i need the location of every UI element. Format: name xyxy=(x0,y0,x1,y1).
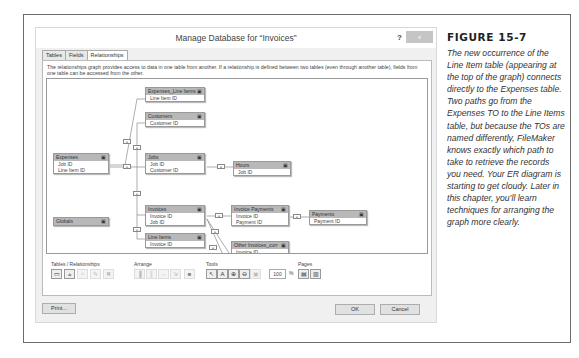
table-occurrence-other-invoices[interactable]: Other Invoices_curr▣ Invoice ID Job ID xyxy=(231,241,289,254)
table-occurrence-expenses[interactable]: Expenses▣ Job ID Line Item ID xyxy=(53,153,109,174)
collapse-icon[interactable]: ▣ xyxy=(359,211,364,218)
resize-icon[interactable]: ⇲ xyxy=(170,269,181,279)
collapse-icon[interactable]: ▣ xyxy=(197,113,202,120)
collapse-icon[interactable]: ▣ xyxy=(281,206,286,213)
help-button[interactable]: ? xyxy=(397,33,402,42)
zoom-unit: % xyxy=(289,270,293,276)
zoom-out-icon[interactable]: ⊖ xyxy=(239,269,250,279)
to-name: Expenses_Line Items xyxy=(148,88,196,94)
align-center-icon[interactable]: ║ xyxy=(146,269,157,279)
to-name: Invoice Payments xyxy=(234,206,273,212)
group-label-tables-relationships: Tables / Relationships xyxy=(51,261,100,267)
table-occurrence-customers[interactable]: Customers▣ Customer ID xyxy=(145,112,205,127)
relationship-invoices-line-items[interactable]: = xyxy=(133,227,141,232)
collapse-icon[interactable]: ▣ xyxy=(101,218,106,225)
to-field: Invoice ID xyxy=(232,249,288,254)
to-field: Invoice ID xyxy=(146,241,204,247)
ok-button[interactable]: OK xyxy=(335,304,375,315)
page-breaks-icon[interactable]: ▥ xyxy=(310,269,321,279)
cancel-button[interactable]: Cancel xyxy=(380,304,420,315)
add-relationship-icon[interactable]: ⫨ xyxy=(64,269,75,279)
table-occurrence-hours[interactable]: Hours▣ Job ID xyxy=(233,161,291,176)
relationship-jobs-customers[interactable]: = xyxy=(133,145,141,150)
relationships-graph[interactable]: Expenses_Line Items▣ Line Item ID Custom… xyxy=(46,78,428,254)
table-occurrence-invoice-payments[interactable]: Invoice Payments▣ Invoice ID Payment ID xyxy=(231,205,289,226)
add-table-icon[interactable]: ▭ xyxy=(51,269,62,279)
duplicate-icon[interactable]: ✧ xyxy=(77,269,88,279)
collapse-icon[interactable]: ▣ xyxy=(197,154,202,161)
to-field: Job ID xyxy=(146,219,204,225)
relationship-invoice-payments-payments[interactable]: = xyxy=(293,214,301,219)
relationship-jobs-hours[interactable]: = xyxy=(217,164,225,169)
collapse-icon[interactable]: ▣ xyxy=(197,206,202,213)
to-name: Line Items xyxy=(148,234,171,240)
to-name: Payments xyxy=(312,211,334,217)
align-left-icon[interactable]: ▐ xyxy=(134,269,145,279)
zoom-level-field[interactable]: 100 xyxy=(269,269,286,279)
to-name: Globals xyxy=(56,218,73,224)
relationship-invoices-other-invoices[interactable]: = xyxy=(211,229,219,234)
to-name: Customers xyxy=(148,113,172,119)
to-name: Hours xyxy=(236,162,249,168)
page-setup-icon[interactable]: ▤ xyxy=(298,269,309,279)
to-field: Payment ID xyxy=(232,219,288,225)
relationship-expenses-jobs[interactable]: = xyxy=(123,164,131,169)
to-name: Jobs xyxy=(148,154,159,160)
collapse-icon[interactable]: ▣ xyxy=(197,234,202,241)
to-name: Expenses xyxy=(56,154,78,160)
close-button[interactable]: x xyxy=(406,31,433,43)
to-name: Other Invoices_curr xyxy=(234,242,278,248)
table-occurrence-line-items[interactable]: Line Items▣ Invoice ID xyxy=(145,233,205,248)
to-field: Customer ID xyxy=(146,120,204,126)
zoom-in-icon[interactable]: ⊕ xyxy=(228,269,239,279)
relationships-panel: The relationships graph provides access … xyxy=(42,60,432,296)
group-label-tools: Tools xyxy=(206,261,218,267)
table-occurrence-invoices[interactable]: Invoices▣ Invoice ID Job ID xyxy=(145,205,205,226)
pointer-tool-icon[interactable]: ↖ xyxy=(206,269,217,279)
fit-icon[interactable]: ▣ xyxy=(250,269,261,279)
print-button[interactable]: Print... xyxy=(42,303,76,314)
group-label-arrange: Arrange xyxy=(134,261,152,267)
edit-icon[interactable]: ✎ xyxy=(90,269,101,279)
to-field: Line Item ID xyxy=(146,95,204,101)
title-bar: Manage Database for “Invoices” ? x xyxy=(36,28,436,48)
relationships-description: The relationships graph provides access … xyxy=(47,64,427,77)
relationship-jobs-invoices[interactable]: = xyxy=(133,191,141,196)
to-name: Invoices xyxy=(148,206,166,212)
table-occurrence-jobs[interactable]: Jobs▣ Job ID Customer ID xyxy=(145,153,205,174)
figure-caption: FIGURE 15-7 The new occurrence of the Li… xyxy=(447,31,565,228)
manage-database-dialog: Manage Database for “Invoices” ? x Table… xyxy=(35,27,437,323)
collapse-icon[interactable]: ▣ xyxy=(281,242,286,249)
relationship-invoices-all-invoices[interactable]: = xyxy=(209,245,217,250)
table-occurrence-globals[interactable]: Globals▣ xyxy=(53,217,109,226)
graph-toolbar: Tables / Relationships ▭ ⫨ ✧ ✎ ✖ Arrange… xyxy=(49,261,434,291)
relationship-invoices-invoice-payments[interactable]: = xyxy=(215,213,223,218)
figure-label: FIGURE 15-7 xyxy=(447,31,565,43)
delete-icon[interactable]: ✖ xyxy=(103,269,114,279)
to-field: Payment ID xyxy=(310,218,366,224)
distribute-icon[interactable]: ↔ xyxy=(158,269,169,279)
to-field: Customer ID xyxy=(146,167,204,173)
to-field: Job ID xyxy=(234,169,290,175)
collapse-icon[interactable]: ▣ xyxy=(197,88,202,95)
caption-body: The new occurrence of the Line Item tabl… xyxy=(447,47,565,228)
text-tool-icon[interactable]: A xyxy=(217,269,228,279)
color-picker-icon[interactable]: ■ xyxy=(184,269,195,279)
group-label-pages: Pages xyxy=(298,261,312,267)
to-field: Line Item ID xyxy=(54,167,108,173)
dialog-title: Manage Database for “Invoices” xyxy=(36,33,436,43)
collapse-icon[interactable]: ▣ xyxy=(283,162,288,169)
table-occurrence-expenses-line-items[interactable]: Expenses_Line Items▣ Line Item ID xyxy=(145,87,205,102)
table-occurrence-payments[interactable]: Payments▣ Payment ID xyxy=(309,210,367,225)
collapse-icon[interactable]: ▣ xyxy=(101,154,106,161)
relationship-expenses-line-items[interactable]: = xyxy=(123,139,131,144)
